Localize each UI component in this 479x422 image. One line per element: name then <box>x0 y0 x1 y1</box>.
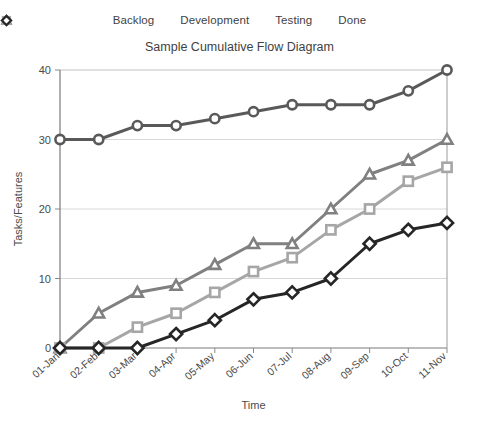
x-axis-tick-label: 09-Sep <box>338 349 371 381</box>
data-point-backlog <box>365 100 374 109</box>
data-point-testing <box>365 204 374 213</box>
x-axis-title: Time <box>241 399 265 411</box>
data-point-development <box>171 280 182 290</box>
data-point-testing <box>404 177 413 186</box>
y-axis-tick-label: 40 <box>39 64 51 76</box>
data-point-backlog <box>94 135 103 144</box>
data-point-done <box>286 286 298 298</box>
x-axis-tick-label: 08-Aug <box>299 349 332 381</box>
data-point-testing <box>326 225 335 234</box>
x-axis-tick-label: 04-Apr <box>146 349 178 379</box>
data-point-done <box>402 224 414 236</box>
cumulative-flow-chart: BacklogDevelopmentTestingDone Sample Cum… <box>0 0 479 422</box>
data-point-backlog <box>326 100 335 109</box>
data-point-development <box>364 169 375 179</box>
series-line-testing <box>60 167 447 348</box>
data-point-development <box>403 155 414 165</box>
data-point-testing <box>133 323 142 332</box>
data-point-done <box>131 342 143 354</box>
y-axis-title: Tasks/Features <box>12 171 24 246</box>
x-axis-tick-label: 01-Jan <box>29 349 61 380</box>
data-point-testing <box>210 288 219 297</box>
data-point-backlog <box>442 65 451 74</box>
data-point-backlog <box>249 107 258 116</box>
chart-plot-area: 01020304001-Jan02-Feb03-Mar04-Apr05-May0… <box>0 0 479 422</box>
data-point-testing <box>172 309 181 318</box>
x-axis-tick-label: 11-Nov <box>416 349 449 381</box>
data-point-testing <box>288 253 297 262</box>
x-axis-tick-label: 10-Oct <box>378 350 410 380</box>
x-axis-tick-label: 02-Feb <box>67 349 100 380</box>
x-axis-tick-label: 05-May <box>182 349 217 382</box>
data-point-backlog <box>288 100 297 109</box>
data-point-development <box>442 134 453 144</box>
y-axis-tick-label: 20 <box>39 203 51 215</box>
data-point-done <box>209 314 221 326</box>
y-axis-tick-label: 30 <box>39 134 51 146</box>
data-point-done <box>170 328 182 340</box>
data-point-done <box>247 293 259 305</box>
data-point-testing <box>249 267 258 276</box>
data-point-development <box>209 259 220 269</box>
y-axis-tick-label: 10 <box>39 273 51 285</box>
data-point-backlog <box>172 121 181 130</box>
x-axis-tick-label: 06-Jun <box>223 349 255 380</box>
x-axis-tick-label: 07-Jul <box>264 350 293 378</box>
data-point-development <box>132 287 143 297</box>
x-axis-tick-label: 03-Mar <box>106 349 139 381</box>
data-point-done <box>441 217 453 229</box>
data-point-backlog <box>133 121 142 130</box>
data-point-development <box>248 238 259 248</box>
data-point-backlog <box>404 86 413 95</box>
data-point-backlog <box>210 114 219 123</box>
data-point-backlog <box>55 135 64 144</box>
data-point-development <box>93 308 104 318</box>
data-point-testing <box>442 163 451 172</box>
series-line-backlog <box>60 70 447 140</box>
